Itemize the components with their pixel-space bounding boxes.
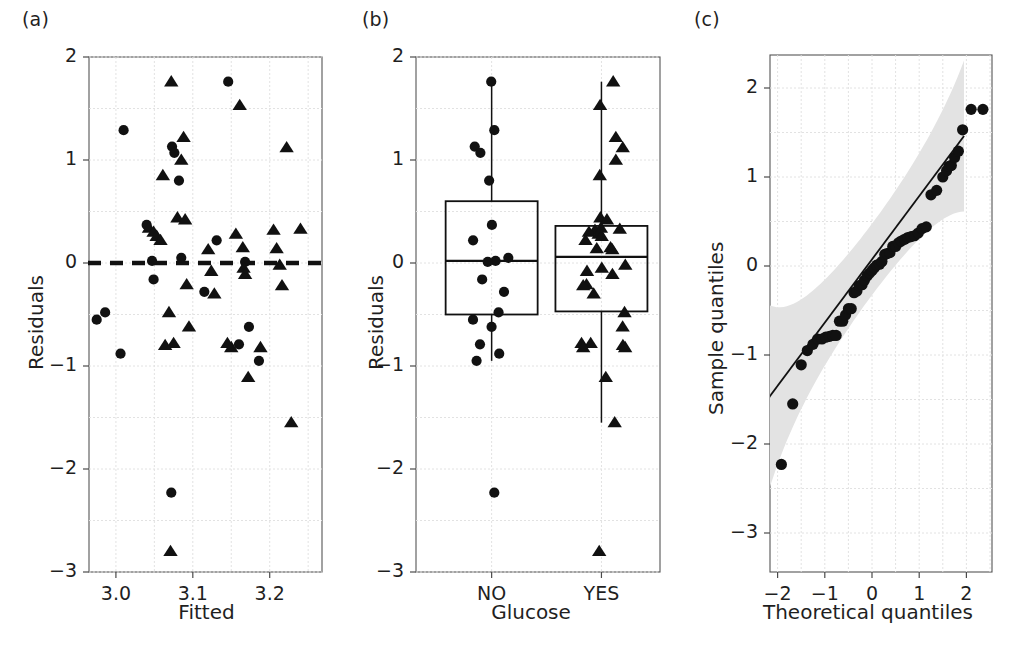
panel-b-ytick-label: −2: [360, 456, 404, 478]
data-point-circle: [119, 125, 129, 135]
data-point-circle: [471, 356, 481, 366]
data-point-circle: [486, 322, 496, 332]
data-point-circle: [977, 104, 988, 115]
data-point-circle: [176, 253, 186, 263]
panel-b-ytick-label: −3: [360, 559, 404, 581]
data-point-circle: [846, 303, 857, 314]
data-point-circle: [468, 315, 478, 325]
data-point-circle: [166, 488, 176, 498]
data-point-circle: [147, 256, 157, 266]
data-point-circle: [254, 356, 264, 366]
panel-a-ytick-label: −3: [33, 559, 77, 581]
panel-c-ytick-label: −2: [714, 431, 758, 453]
panel-c-ytick-label: 0: [714, 253, 758, 275]
data-point-circle: [212, 235, 222, 245]
data-point-circle: [244, 322, 254, 332]
data-point-circle: [966, 104, 977, 115]
panel-b-ytick-label: 1: [360, 147, 404, 169]
data-point-circle: [499, 287, 509, 297]
data-point-circle: [493, 307, 503, 317]
data-point-circle: [503, 253, 513, 263]
data-point-circle: [475, 148, 485, 158]
data-point-circle: [100, 307, 110, 317]
data-point-circle: [787, 398, 798, 409]
panel-c-ytick-label: −1: [714, 342, 758, 364]
panel-a-xtick-label: 3.1: [153, 582, 233, 604]
data-point-circle: [796, 359, 807, 370]
data-point-circle: [174, 176, 184, 186]
data-point-circle: [484, 176, 494, 186]
panel-a-ytick-label: −2: [33, 456, 77, 478]
panel-a-xtick-label: 3.2: [230, 582, 310, 604]
panel-b-category-label: YES: [561, 582, 641, 604]
data-point-circle: [487, 220, 497, 230]
panel-c-ytick-label: 1: [714, 164, 758, 186]
data-point-circle: [148, 274, 158, 284]
panel-b-plot: [340, 0, 680, 653]
panel-b-ytick-label: 2: [360, 44, 404, 66]
panel-c-qq-plot: (c) Theoretical quantiles Sample quantil…: [680, 0, 1018, 653]
data-point-circle: [223, 77, 233, 87]
panel-b-category-label: NO: [452, 582, 532, 604]
data-point-circle: [494, 349, 504, 359]
panel-a-ytick-label: 0: [33, 250, 77, 272]
data-point-circle: [483, 257, 493, 267]
data-point-circle: [921, 221, 932, 232]
panel-b-ticks: [410, 57, 416, 572]
data-point-circle: [199, 287, 209, 297]
panel-b-ytick-label: −1: [360, 353, 404, 375]
panel-b-ytick-label: 0: [360, 250, 404, 272]
data-point-circle: [957, 124, 968, 135]
data-point-circle: [776, 459, 787, 470]
data-point-circle: [468, 235, 478, 245]
panel-a-ytick-label: −1: [33, 353, 77, 375]
panel-c-ytick-label: −3: [714, 520, 758, 542]
panel-b-glucose-boxplot: (b) Glucose Residuals −3−2−1012NOYES: [340, 0, 680, 653]
panel-a-plot: [0, 0, 340, 653]
data-point-circle: [931, 185, 942, 196]
data-point-circle: [115, 349, 125, 359]
panel-a-fitted-vs-residuals: (a) Fitted Residuals −3−2−10123.03.13.2: [0, 0, 340, 653]
data-point-circle: [486, 77, 496, 87]
data-point-circle: [489, 125, 499, 135]
panel-c-xtick-label: 2: [926, 582, 1006, 604]
panel-c-plot: [680, 0, 1018, 653]
data-point-circle: [477, 274, 487, 284]
panel-a-xtick-label: 3.0: [76, 582, 156, 604]
data-point-circle: [169, 148, 179, 158]
panel-a-ytick-label: 2: [33, 44, 77, 66]
data-point-circle: [92, 315, 102, 325]
panel-c-ytick-label: 2: [714, 75, 758, 97]
panel-a-ytick-label: 1: [33, 147, 77, 169]
data-point-circle: [831, 330, 842, 341]
data-point-circle: [953, 146, 964, 157]
residual-diagnostics-figure: (a) Fitted Residuals −3−2−10123.03.13.2 …: [0, 0, 1018, 653]
data-point-circle: [489, 488, 499, 498]
data-point-circle: [475, 339, 485, 349]
